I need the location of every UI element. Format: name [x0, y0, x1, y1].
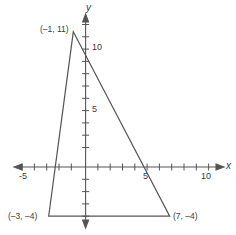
vertex-label-bottom-right: (7, –4)	[173, 212, 198, 221]
x-tick-label-neg5: -5	[19, 172, 27, 181]
y-axis-arrow-bottom	[83, 220, 89, 228]
triangle-shape	[49, 32, 170, 216]
vertex-label-bottom-left: (–3, –4)	[8, 212, 37, 221]
y-axis-arrow-top	[83, 14, 89, 22]
vertex-label-top-left: (–1, 11)	[40, 25, 69, 34]
x-axis-arrow-right	[216, 164, 224, 170]
y-tick-label-10: 10	[92, 43, 102, 52]
y-axis-label: y	[86, 3, 91, 13]
x-axis-arrow-left	[14, 164, 22, 170]
graph-canvas	[0, 0, 236, 235]
x-tick-label-10: 10	[201, 172, 211, 181]
coordinate-plane-figure: -5 5 10 5 10 x y (–1, 11) (–3, –4) (7, –…	[0, 0, 236, 235]
x-tick-label-5: 5	[143, 172, 148, 181]
x-axis	[14, 164, 224, 171]
x-axis-label: x	[226, 161, 231, 171]
y-tick-label-5: 5	[92, 105, 97, 114]
y-axis	[82, 14, 89, 228]
